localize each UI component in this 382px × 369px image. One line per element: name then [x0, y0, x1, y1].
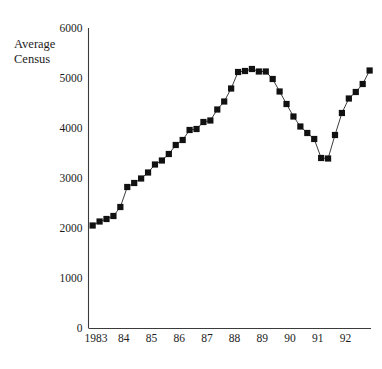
data-point-marker	[200, 119, 206, 125]
data-point-marker	[290, 113, 296, 119]
y-axis-tick-label: 5000	[60, 72, 83, 84]
x-axis-tick-label: 89	[257, 332, 269, 344]
data-point-marker	[256, 68, 262, 74]
y-axis-tick-label: 4000	[60, 122, 83, 134]
data-point-marker	[180, 137, 186, 143]
y-axis-tick-label: 2000	[60, 222, 83, 234]
y-axis-tick-label: 6000	[60, 22, 83, 34]
y-axis-title-line-2: Census	[14, 52, 50, 66]
data-point-marker	[131, 180, 137, 186]
x-axis-tick-label: 86	[173, 332, 185, 344]
data-point-marker	[353, 89, 359, 95]
data-point-marker	[152, 161, 158, 167]
x-axis-tick-label: 91	[312, 332, 324, 344]
data-point-marker	[145, 169, 151, 175]
data-point-marker	[318, 155, 324, 161]
data-point-marker	[325, 155, 331, 161]
x-axis-tick-label: 1983	[85, 332, 108, 344]
data-point-marker	[242, 68, 248, 74]
data-point-marker	[249, 66, 255, 72]
y-axis-tick-label: 3000	[60, 172, 83, 184]
y-axis-group: 0100020003000400050006000	[60, 22, 89, 334]
data-point-marker	[138, 175, 144, 181]
data-point-marker	[193, 126, 199, 132]
y-axis-title-group: Average Census	[14, 37, 56, 66]
data-point-marker	[173, 142, 179, 148]
data-point-marker	[270, 76, 276, 82]
data-point-marker	[186, 127, 192, 133]
data-point-marker	[346, 95, 352, 101]
data-point-marker	[96, 218, 102, 224]
y-axis-title-line-1: Average	[14, 37, 56, 51]
x-axis-tick-labels: 1983848586878889909192	[85, 332, 352, 344]
data-point-marker	[297, 123, 303, 129]
x-axis-tick-label: 88	[229, 332, 241, 344]
data-point-marker	[339, 110, 345, 116]
x-axis-tick-label: 92	[340, 332, 352, 344]
average-census-line-chart: 0100020003000400050006000 19838485868788…	[0, 0, 382, 369]
data-point-marker	[367, 67, 373, 73]
series-markers-average-census	[90, 66, 373, 229]
data-point-marker	[283, 101, 289, 107]
figure-caption-strip	[0, 360, 382, 369]
data-point-marker	[124, 184, 130, 190]
x-axis-tick-label: 84	[118, 332, 130, 344]
x-axis-tick-label: 85	[146, 332, 158, 344]
data-point-marker	[90, 222, 96, 228]
series-line-average-census	[93, 69, 370, 226]
data-point-marker	[263, 68, 269, 74]
chart-plot-area: 0100020003000400050006000 19838485868788…	[0, 0, 382, 369]
x-axis-group: 1983848586878889909192	[85, 329, 371, 345]
data-point-marker	[110, 213, 116, 219]
data-point-marker	[311, 136, 317, 142]
y-axis-tick-labels: 0100020003000400050006000	[60, 22, 83, 334]
data-point-marker	[207, 117, 213, 123]
data-series-group	[90, 66, 373, 229]
x-axis-tick-label: 87	[201, 332, 213, 344]
data-point-marker	[304, 130, 310, 136]
chart-page: 0100020003000400050006000 19838485868788…	[0, 0, 382, 369]
data-point-marker	[166, 151, 172, 157]
data-point-marker	[228, 85, 234, 91]
data-point-marker	[332, 132, 338, 138]
data-point-marker	[221, 98, 227, 104]
data-point-marker	[159, 157, 165, 163]
y-axis-tick-label: 0	[77, 322, 83, 334]
data-point-marker	[360, 81, 366, 87]
data-point-marker	[103, 216, 109, 222]
y-axis-tick-label: 1000	[60, 272, 83, 284]
data-point-marker	[277, 88, 283, 94]
x-axis-tick-label: 90	[284, 332, 296, 344]
data-point-marker	[214, 106, 220, 112]
data-point-marker	[117, 204, 123, 210]
data-point-marker	[235, 69, 241, 75]
